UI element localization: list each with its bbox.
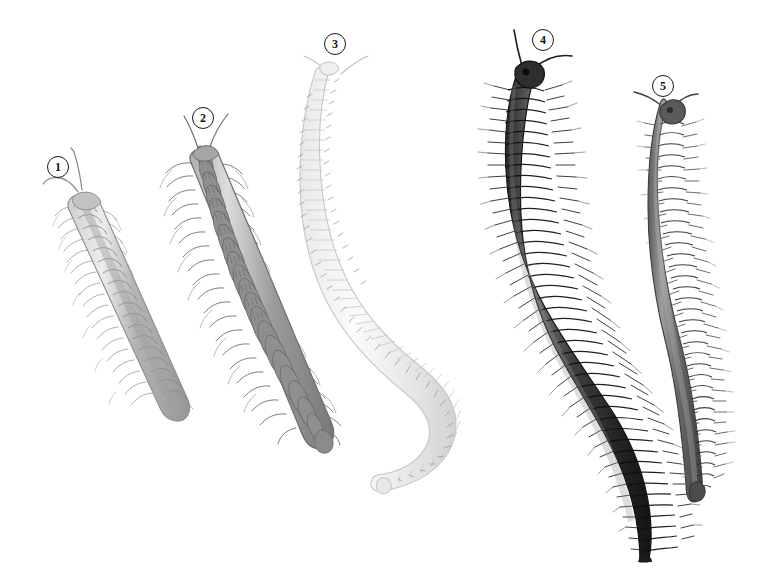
specimen-label-5: 5 [652, 75, 674, 97]
illustration-plate: 1 2 3 4 5 [0, 0, 757, 568]
specimen-5-eye [667, 107, 673, 113]
specimen-label-3-text: 3 [332, 38, 338, 50]
specimen-4-eye [523, 69, 530, 76]
specimen-1 [43, 148, 193, 421]
specimen-label-4-text: 4 [540, 34, 546, 46]
specimen-1-shading [80, 200, 179, 417]
specimen-label-3: 3 [324, 33, 346, 55]
specimen-4-head [515, 61, 544, 88]
specimen-label-2: 2 [192, 107, 214, 129]
millipede-plate-svg [0, 0, 757, 568]
specimen-4-body [506, 64, 652, 562]
specimen-label-2-text: 2 [200, 112, 206, 124]
specimen-5-tail [689, 482, 705, 501]
specimen-label-4: 4 [532, 29, 554, 51]
specimen-4-highlight [509, 86, 634, 522]
specimen-label-1-text: 1 [55, 161, 61, 173]
specimen-label-5-text: 5 [660, 80, 666, 92]
specimen-label-1: 1 [47, 156, 69, 178]
specimen-1-head [73, 192, 101, 210]
specimen-3-tail [376, 478, 391, 494]
specimen-3-head [320, 62, 339, 75]
